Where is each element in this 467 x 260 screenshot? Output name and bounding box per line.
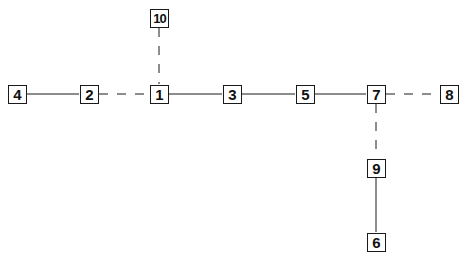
- node-2: 2: [80, 85, 99, 104]
- node-3: 3: [223, 85, 242, 104]
- node-4: 4: [8, 85, 27, 104]
- node-8: 8: [440, 85, 459, 104]
- node-10: 10: [150, 9, 169, 28]
- node-6: 6: [367, 233, 386, 252]
- graph-diagram: 4 2 1 3 5 7 8 10 9 6: [0, 0, 467, 260]
- node-9: 9: [367, 159, 386, 178]
- node-7: 7: [367, 85, 386, 104]
- node-5: 5: [296, 85, 315, 104]
- edge-layer: [0, 0, 467, 260]
- node-1: 1: [150, 85, 169, 104]
